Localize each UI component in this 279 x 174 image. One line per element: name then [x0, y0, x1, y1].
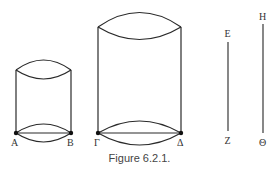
label-A: A	[11, 137, 19, 148]
small-top-arc-upper	[16, 60, 71, 70]
figure-caption: Figure 6.2.1.	[0, 152, 279, 164]
label-H: H	[259, 11, 266, 22]
point-A	[14, 131, 18, 135]
small-base-arc-upper	[16, 124, 71, 133]
large-top-arc-upper	[98, 13, 181, 28]
segment-EZ: E Z	[225, 28, 231, 146]
large-cylinder: Γ Δ	[94, 13, 184, 149]
geometry-figure: A B Γ Δ E Z H Θ	[0, 0, 279, 174]
point-Delta	[179, 131, 183, 135]
small-cylinder: A B	[11, 60, 74, 148]
small-top-arc-lower	[16, 70, 71, 79]
label-Delta: Δ	[177, 137, 184, 148]
label-Gamma: Γ	[94, 137, 100, 148]
large-base-arc-lower	[98, 133, 181, 145]
point-Gamma	[96, 131, 100, 135]
label-B: B	[67, 137, 74, 148]
small-base-arc-lower	[16, 133, 71, 142]
point-B	[69, 131, 73, 135]
large-top-arc-lower	[98, 27, 181, 40]
label-E: E	[225, 28, 231, 39]
large-base-arc-upper	[98, 121, 181, 133]
label-Theta: Θ	[259, 137, 266, 148]
segment-HTheta: H Θ	[259, 11, 266, 148]
label-Z: Z	[225, 135, 231, 146]
